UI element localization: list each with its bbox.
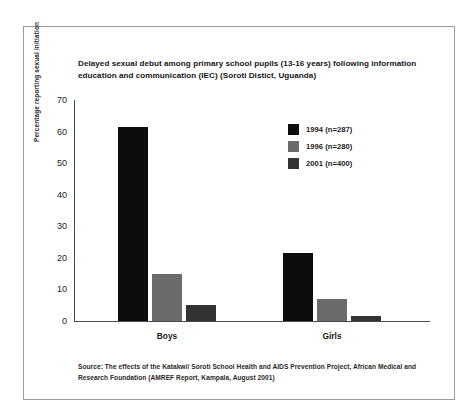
y-axis-tick-label: 0: [62, 316, 67, 326]
x-axis-group-label: Boys: [157, 331, 177, 341]
source-note: Source: The effects of the Katakwi/ Soro…: [78, 361, 440, 383]
bar: [283, 253, 313, 321]
chart-legend: 1994 (n=287)1996 (n=280)2001 (n=400): [288, 121, 352, 172]
bar: [186, 305, 216, 321]
y-axis-line: [74, 100, 75, 321]
x-axis-group-label: Girls: [322, 331, 341, 341]
bar: [118, 127, 148, 321]
y-axis-tick-label: 50: [57, 158, 67, 168]
legend-item: 1994 (n=287): [288, 121, 352, 138]
chart-title: Delayed sexual debut among primary schoo…: [78, 58, 443, 82]
y-axis-tick-label: 40: [57, 190, 67, 200]
y-axis-tick-label: 10: [57, 284, 67, 294]
legend-label: 2001 (n=400): [306, 159, 352, 168]
y-axis-tick-label: 60: [57, 127, 67, 137]
y-axis-tick-label: 30: [57, 221, 67, 231]
legend-item: 1996 (n=280): [288, 138, 352, 155]
plot-area: 010203040506070 BoysGirls: [74, 100, 430, 321]
y-axis-tick-label: 20: [57, 253, 67, 263]
y-axis-tick-label: 70: [57, 95, 67, 105]
x-axis-line: [74, 321, 430, 322]
legend-swatch-icon: [288, 141, 299, 152]
figure-container: Delayed sexual debut among primary schoo…: [0, 0, 475, 418]
bar: [317, 299, 347, 321]
bar: [152, 274, 182, 321]
legend-label: 1996 (n=280): [306, 142, 352, 151]
bar: [351, 316, 381, 321]
legend-swatch-icon: [288, 124, 299, 135]
legend-label: 1994 (n=287): [306, 125, 352, 134]
legend-swatch-icon: [288, 158, 299, 169]
legend-item: 2001 (n=400): [288, 155, 352, 172]
